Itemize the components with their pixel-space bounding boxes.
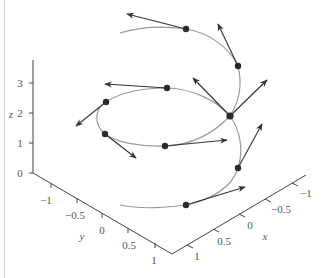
plot-canvas: 3 2 1 0 z −1 −0.5 0 0.5 1 y 1 0.5 0 −0.5… [0,0,321,278]
tangent-vectors [76,14,267,205]
y-tick-label: −1 [40,194,52,206]
helix-segment-upper [120,27,240,116]
tangent-arrow [186,187,245,205]
data-point [162,143,168,149]
tangent-arrow [238,124,262,168]
z-tick-label: 2 [17,107,23,119]
x-tick-label: −1 [300,187,312,199]
x-tick-label: 0.5 [217,235,231,247]
tangent-arrow [76,102,106,126]
data-point [235,63,241,69]
data-point [103,99,109,105]
data-point [102,131,108,137]
helix-3d-chart: 3 2 1 0 z −1 −0.5 0 0.5 1 y 1 0.5 0 −0.5… [0,0,321,278]
x-tick-label: 0 [247,219,253,231]
x-tick-label: −0.5 [271,203,291,215]
y-axis-label: y [79,230,85,242]
tangent-arrow [105,84,167,88]
z-axis-label: z [8,108,14,120]
x-tick [292,183,298,186]
z-tick-label: 0 [17,167,23,179]
data-point [183,202,189,208]
x-axis-label: x [262,230,268,242]
x-tick [187,245,193,248]
data-point [226,112,233,119]
y-tick-label: 0.5 [122,239,136,251]
tick-labels: 3 2 1 0 z −1 −0.5 0 0.5 1 y 1 0.5 0 −0.5… [8,77,312,266]
tangent-arrow [105,134,136,158]
helix-curve [97,27,241,207]
y-tick-label: −0.5 [65,209,85,221]
x-tick [239,214,245,217]
y-tick-label: 1 [151,254,157,266]
data-point [164,85,170,91]
sample-points [102,26,241,208]
tangent-arrow [230,80,267,116]
x-tick [213,229,219,232]
data-point [235,165,241,171]
z-tick-label: 1 [17,137,23,149]
x-tick [265,199,271,202]
z-tick-label: 3 [17,77,23,89]
x-tick-label: 1 [194,250,200,262]
helix-segment-lower-loop [97,88,230,146]
y-tick-label: 0 [99,224,105,236]
data-point [183,26,189,32]
tangent-arrow [193,78,230,116]
tangent-arrow [165,140,227,146]
page-edge-line [4,0,5,278]
